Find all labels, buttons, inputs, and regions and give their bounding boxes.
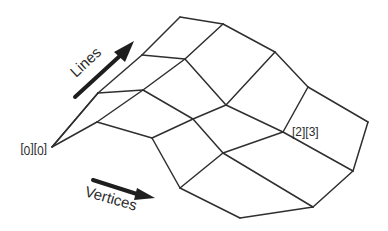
mesh-canvas: Lines Vertices [0][0] [2][3] bbox=[0, 0, 388, 231]
mesh-edge-vertex-3-l0 bbox=[180, 153, 223, 188]
mesh-edge-vertex-4-l1 bbox=[313, 171, 353, 207]
mesh-edge-vertex-3-l1 bbox=[223, 132, 283, 153]
mesh-edge-vertex-4-l0 bbox=[240, 207, 313, 218]
mesh-edge-line-0-v2 bbox=[152, 138, 180, 188]
mesh-edge-line-1-v0 bbox=[98, 90, 143, 93]
mesh-edge-origin-fan bbox=[52, 93, 98, 147]
mesh-edge-line-0-v0 bbox=[52, 122, 97, 147]
mesh-edge-line-3-v2 bbox=[275, 52, 308, 87]
mesh-edge-line-2-v1 bbox=[185, 59, 226, 105]
mesh-edge-line-0-v3 bbox=[180, 188, 240, 218]
mesh-edge-line-2-v0 bbox=[142, 55, 185, 59]
mesh-edge-vertex-4-l2 bbox=[353, 122, 368, 171]
mesh-edge-line-2-v2 bbox=[226, 105, 283, 132]
mesh-edge-vertex-0-l1 bbox=[98, 55, 142, 93]
mesh-edge-line-3-v1 bbox=[223, 24, 275, 52]
mesh-edge-line-1-v3 bbox=[223, 153, 313, 207]
mesh-edge-vertex-2-l2 bbox=[226, 52, 275, 105]
sample-index-label: [2][3] bbox=[292, 125, 319, 139]
mesh-edge-vertex-2-l1 bbox=[193, 105, 226, 119]
mesh-edge-line-1-v2 bbox=[193, 119, 223, 153]
mesh-edge-line-1-v1 bbox=[143, 90, 193, 119]
mesh-edge-vertex-1-l1 bbox=[143, 59, 185, 90]
mesh-edge-vertex-1-l0 bbox=[97, 90, 143, 122]
mesh-edge-vertex-2-l0 bbox=[152, 119, 193, 138]
mesh-diagram: Lines Vertices [0][0] [2][3] bbox=[0, 0, 388, 231]
mesh-edge-line-3-v3 bbox=[308, 87, 368, 122]
mesh-edge-line-3-v0 bbox=[180, 17, 223, 24]
mesh-edge-vertex-1-l2 bbox=[185, 24, 223, 59]
origin-index-label: [0][0] bbox=[20, 143, 47, 157]
mesh-edge-vertex-0-l2 bbox=[142, 17, 180, 55]
mesh-edge-line-0-v1 bbox=[97, 122, 152, 138]
